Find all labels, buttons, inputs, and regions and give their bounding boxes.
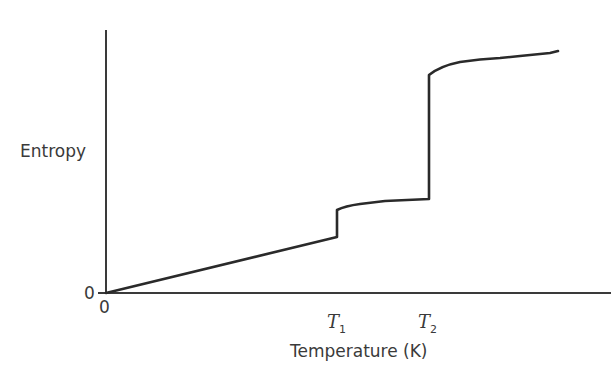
x-axis-label: Temperature (K) [290, 341, 428, 361]
t2-symbol: T [418, 311, 430, 332]
x-tick-zero: 0 [99, 297, 110, 317]
entropy-chart: Entropy Temperature (K) 0 0 T1 T2 [0, 0, 614, 376]
t1-subscript: 1 [339, 323, 346, 336]
y-tick-zero: 0 [84, 283, 95, 303]
x-tick-t1: T1 [327, 311, 346, 336]
chart-plot-area [0, 0, 614, 376]
t1-symbol: T [327, 311, 339, 332]
x-tick-t2: T2 [418, 311, 437, 336]
y-axis-label: Entropy [20, 141, 86, 161]
t2-subscript: 2 [430, 323, 437, 336]
entropy-curve [106, 51, 558, 293]
